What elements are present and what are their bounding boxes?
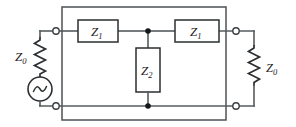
source-internal-resistor-zigzag [35, 37, 46, 77]
output-bottom-terminal [233, 103, 239, 109]
circuit-schematic: Z0 Z1 Z1 Z2 Z0 [0, 0, 296, 127]
bottom-shunt-node-dot [145, 103, 151, 109]
input-bottom-terminal [53, 103, 59, 109]
output-top-terminal [233, 28, 239, 34]
load-impedance-label: Z0 [266, 61, 278, 77]
top-shunt-node-dot [145, 28, 151, 34]
circuit-diagram-canvas: Z0 Z1 Z1 Z2 Z0 [0, 0, 296, 127]
source-impedance-label: Z0 [15, 49, 27, 66]
load-resistor-zigzag [249, 45, 260, 86]
input-top-terminal [53, 28, 59, 34]
